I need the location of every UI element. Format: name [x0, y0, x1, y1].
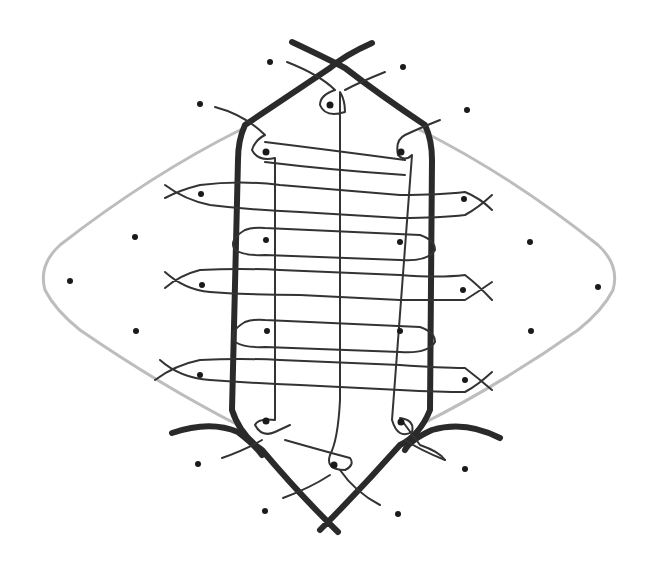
- weave-upper-right-loop: [392, 120, 445, 460]
- weave-horizontal-2: [265, 162, 405, 175]
- dots: [67, 59, 601, 517]
- weave-top-center: [285, 62, 352, 470]
- weave-fish-left-1: [165, 183, 492, 219]
- weave-horizontal-1: [265, 142, 405, 160]
- weave-fish-left-2: [165, 269, 492, 300]
- weave-bottom-right-tail: [405, 440, 445, 460]
- weave-fish-left-3: [155, 359, 492, 392]
- bottom-left-curve: [172, 426, 262, 455]
- outer-diamond-outline: [43, 130, 614, 425]
- kolam-diagram: [0, 0, 658, 582]
- weave-oval-2: [233, 320, 435, 353]
